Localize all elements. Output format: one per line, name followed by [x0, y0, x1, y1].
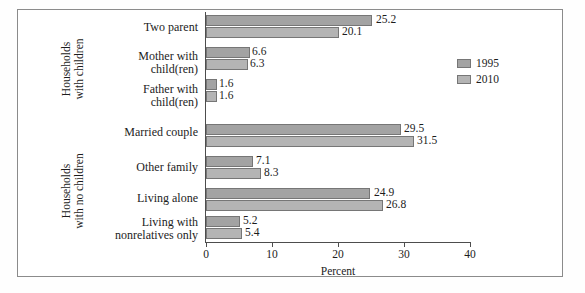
bar-other-family-1995[interactable]	[206, 156, 253, 167]
x-tick-mark-10	[272, 242, 273, 247]
label-line2: child(ren)	[151, 95, 198, 109]
bar-married-couple-2010[interactable]	[206, 136, 414, 147]
bar-father-1995[interactable]	[206, 79, 217, 90]
category-label-other-family: Other family	[48, 161, 198, 174]
bar-value-father-1995: 1.6	[219, 77, 233, 89]
label-line1: Other family	[136, 160, 198, 174]
bar-father-2010[interactable]	[206, 91, 217, 102]
bar-mother-2010[interactable]	[206, 59, 248, 70]
label-line1: Living with	[142, 215, 198, 229]
x-tick-mark-0	[206, 242, 207, 247]
bar-value-married-couple-2010: 31.5	[417, 134, 437, 146]
label-line1: Married couple	[124, 125, 198, 139]
category-label-living-alone: Living alone	[48, 192, 198, 205]
x-tick-label-0: 0	[203, 248, 209, 260]
bar-value-two-parent-2010: 20.1	[342, 25, 362, 37]
bar-value-living-alone-1995: 24.9	[374, 186, 394, 198]
category-label-living-with-nonrelatives-only: Living with nonrelatives only	[48, 216, 198, 242]
legend-item-1995[interactable]: 1995	[457, 56, 499, 70]
bar-living-alone-1995[interactable]	[206, 188, 370, 199]
legend-label-2010: 2010	[476, 73, 499, 85]
bar-mother-1995[interactable]	[206, 47, 250, 58]
category-label-father-with-children: Father with child(ren)	[48, 83, 198, 109]
category-label-two-parent: Two parent	[48, 21, 198, 34]
chart-legend: 1995 2010	[457, 56, 499, 88]
bar-value-mother-1995: 6.6	[252, 45, 266, 57]
x-tick-label-20: 20	[332, 248, 344, 260]
category-label-mother-with-children: Mother with child(ren)	[48, 50, 198, 76]
bar-living-alone-2010[interactable]	[206, 200, 383, 211]
x-tick-label-40: 40	[464, 248, 476, 260]
category-label-married-couple: Married couple	[48, 126, 198, 139]
bar-value-nonrelatives-1995: 5.2	[243, 214, 257, 226]
x-tick-label-30: 30	[398, 248, 410, 260]
label-line1: Two parent	[144, 20, 198, 34]
bar-value-other-family-1995: 7.1	[256, 154, 270, 166]
bar-value-living-alone-2010: 26.8	[386, 198, 406, 210]
label-line2: nonrelatives only	[115, 228, 198, 242]
legend-swatch-icon-1995	[457, 59, 471, 68]
bar-value-mother-2010: 6.3	[250, 57, 264, 69]
bar-value-nonrelatives-2010: 5.4	[245, 226, 259, 238]
bar-other-family-2010[interactable]	[206, 168, 261, 179]
x-axis-title: Percent	[206, 265, 470, 277]
x-tick-label-10: 10	[266, 248, 278, 260]
legend-item-2010[interactable]: 2010	[457, 72, 499, 86]
bar-value-other-family-2010: 8.3	[264, 166, 278, 178]
legend-swatch-icon-2010	[457, 75, 471, 84]
bar-two-parent-2010[interactable]	[206, 27, 339, 38]
bar-value-father-2010: 1.6	[219, 89, 233, 101]
x-tick-mark-20	[338, 242, 339, 247]
legend-label-1995: 1995	[476, 57, 499, 69]
bar-value-two-parent-1995: 25.2	[376, 13, 396, 25]
label-line1: Father with	[143, 82, 198, 96]
x-tick-mark-40	[470, 242, 471, 247]
bar-nonrelatives-1995[interactable]	[206, 216, 240, 227]
chart-figure: Households with children Households with…	[0, 0, 585, 293]
x-tick-mark-30	[404, 242, 405, 247]
label-line1: Mother with	[138, 49, 198, 63]
bar-value-married-couple-1995: 29.5	[404, 122, 424, 134]
bar-married-couple-1995[interactable]	[206, 124, 401, 135]
label-line2: child(ren)	[151, 62, 198, 76]
bar-nonrelatives-2010[interactable]	[206, 228, 242, 239]
label-line1: Living alone	[137, 191, 198, 205]
